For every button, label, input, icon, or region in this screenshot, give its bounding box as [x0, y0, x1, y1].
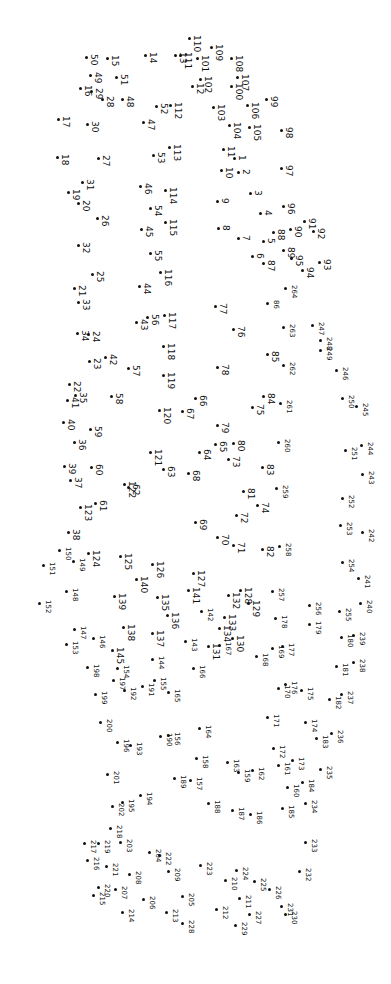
- dot-marker-icon: [246, 104, 249, 107]
- point-number: 141: [191, 587, 200, 604]
- point-number: 144: [157, 656, 164, 669]
- dot-marker-icon: [73, 628, 76, 631]
- point-number: 75: [255, 404, 264, 415]
- point-number: 251: [350, 447, 357, 460]
- dot-marker-icon: [281, 645, 284, 648]
- dot-marker-icon: [164, 221, 167, 224]
- point-number: 243: [367, 471, 374, 484]
- dot-marker-icon: [159, 735, 162, 738]
- point-number: 160: [292, 784, 299, 797]
- dot-marker-icon: [191, 85, 194, 88]
- point-number: 171: [272, 714, 279, 727]
- dot-marker-icon: [207, 645, 210, 648]
- dot-marker-icon: [79, 506, 82, 509]
- point-number: 213: [171, 909, 178, 922]
- point-number: 95: [294, 255, 303, 266]
- point-number: 87: [266, 260, 275, 271]
- dot-marker-icon: [339, 524, 342, 527]
- dot-marker-icon: [256, 504, 259, 507]
- dot-marker-icon: [104, 356, 107, 359]
- dot-marker-icon: [111, 805, 114, 808]
- point-number: 195: [127, 799, 134, 812]
- dot-to-dot-puzzle: 1234567891011121314151617181920212223242…: [0, 0, 391, 984]
- point-number: 72: [239, 512, 248, 523]
- dot-marker-icon: [262, 395, 265, 398]
- point-number: 150: [64, 547, 71, 560]
- point-number: 165: [173, 689, 180, 702]
- dot-marker-icon: [298, 870, 301, 873]
- point-number: 27: [101, 155, 110, 166]
- point-number: 29: [94, 88, 103, 99]
- point-number: 148: [71, 588, 78, 601]
- dot-marker-icon: [135, 321, 138, 324]
- dot-marker-icon: [255, 655, 258, 658]
- dot-marker-icon: [335, 665, 338, 668]
- point-number: 232: [304, 868, 311, 881]
- point-number: 42: [108, 354, 117, 365]
- point-number: 233: [310, 839, 317, 852]
- dot-marker-icon: [144, 54, 147, 57]
- point-number: 43: [139, 319, 148, 330]
- point-number: 66: [198, 395, 207, 406]
- point-number: 198: [92, 664, 99, 677]
- point-number: 58: [114, 393, 123, 404]
- dot-marker-icon: [79, 87, 82, 90]
- point-number: 123: [83, 504, 92, 521]
- dot-marker-icon: [341, 497, 344, 500]
- point-number: 138: [126, 624, 135, 641]
- dot-marker-icon: [328, 698, 331, 701]
- point-number: 36: [77, 439, 86, 450]
- dot-marker-icon: [86, 123, 89, 126]
- dot-marker-icon: [94, 502, 97, 505]
- point-number: 175: [306, 687, 313, 700]
- point-number: 7: [241, 235, 250, 241]
- point-number: 88: [276, 229, 285, 240]
- point-number: 214: [127, 909, 134, 922]
- point-number: 172: [278, 745, 285, 758]
- dot-marker-icon: [290, 257, 293, 260]
- point-number: 216: [92, 857, 99, 870]
- dot-marker-icon: [179, 54, 182, 57]
- point-number: 140: [139, 576, 148, 593]
- point-number: 14: [148, 52, 157, 63]
- point-number: 225: [259, 878, 266, 891]
- point-number: 142: [206, 608, 213, 621]
- point-number: 149: [78, 558, 85, 571]
- point-number: 109: [214, 44, 223, 61]
- dot-marker-icon: [272, 747, 275, 750]
- dot-marker-icon: [340, 636, 343, 639]
- dot-marker-icon: [135, 578, 138, 581]
- point-number: 168: [261, 653, 268, 666]
- dot-marker-icon: [235, 514, 238, 517]
- point-number: 155: [159, 677, 166, 690]
- dot-marker-icon: [335, 369, 338, 372]
- dot-marker-icon: [220, 169, 223, 172]
- dot-marker-icon: [57, 118, 60, 121]
- dot-marker-icon: [116, 741, 119, 744]
- dot-marker-icon: [262, 240, 265, 243]
- point-number: 196: [122, 739, 129, 752]
- dot-marker-icon: [86, 666, 89, 669]
- dot-marker-icon: [151, 563, 154, 566]
- point-number: 256: [314, 602, 321, 615]
- dot-marker-icon: [138, 285, 141, 288]
- point-number: 110: [192, 35, 201, 52]
- dot-marker-icon: [277, 441, 280, 444]
- point-number: 189: [179, 775, 186, 788]
- dot-marker-icon: [266, 716, 269, 719]
- dot-marker-icon: [228, 124, 231, 127]
- point-number: 246: [341, 367, 348, 380]
- point-number: 15: [110, 55, 119, 66]
- dot-marker-icon: [141, 685, 144, 688]
- dot-marker-icon: [352, 634, 355, 637]
- dot-marker-icon: [156, 596, 159, 599]
- point-number: 38: [71, 529, 80, 540]
- point-number: 193: [135, 742, 142, 755]
- point-number: 187: [237, 807, 244, 820]
- dot-marker-icon: [248, 913, 251, 916]
- dot-marker-icon: [165, 911, 168, 914]
- point-number: 84: [266, 393, 275, 404]
- point-number: 241: [363, 575, 370, 588]
- point-number: 78: [220, 364, 229, 375]
- dot-marker-icon: [330, 732, 333, 735]
